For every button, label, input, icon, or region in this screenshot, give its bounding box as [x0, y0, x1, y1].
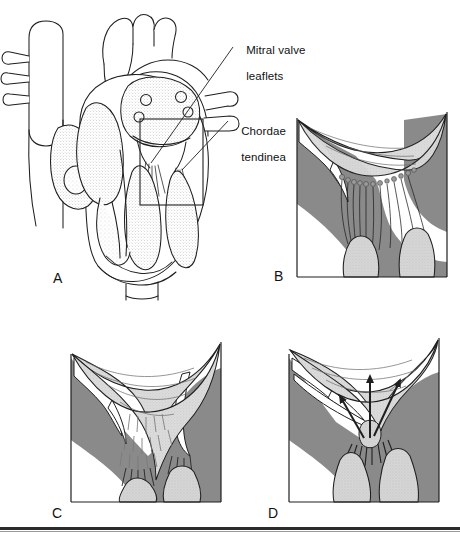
panel-letter-d: D — [268, 505, 278, 521]
panel-a-whole-heart — [0, 0, 240, 300]
bottom-rule — [0, 527, 460, 530]
panel-letter-b: B — [274, 268, 284, 284]
label-chordae-line1: Chordae — [241, 125, 286, 137]
label-chordae-tendineae: Chordae tendineae — [228, 112, 293, 177]
panel-letter-c: C — [52, 505, 62, 521]
label-mitral-valve-line2: leaflets — [246, 70, 283, 82]
figure-mitral-valve: A Mitral valve leaflets Chordae tendinea… — [0, 0, 460, 540]
panel-c-thickened-leaflets — [60, 318, 232, 510]
label-chordae-line2: tendineae — [241, 151, 292, 163]
panel-b-normal-valve — [286, 84, 458, 286]
panel-d-prolapsing-leaflets — [278, 318, 450, 510]
panel-letter-a: A — [53, 270, 63, 286]
label-mitral-valve-line1: Mitral valve — [246, 44, 305, 56]
bottom-rule-shadow — [0, 531, 460, 532]
